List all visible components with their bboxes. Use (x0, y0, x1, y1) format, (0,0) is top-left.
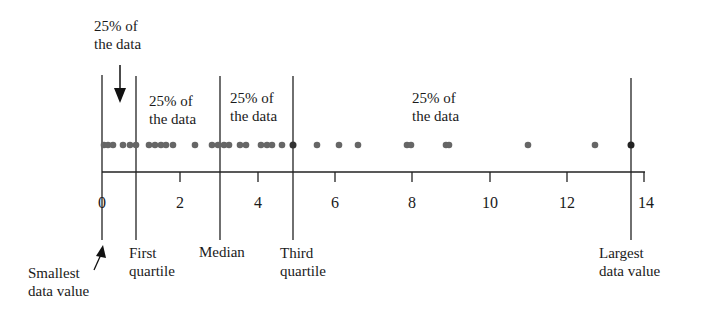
tick-label: 4 (254, 194, 262, 212)
tick-label: 0 (98, 194, 106, 212)
axis-ticks (180, 172, 644, 182)
data-points (101, 142, 635, 149)
tick-label: 10 (482, 194, 498, 212)
tick-label: 6 (331, 194, 339, 212)
smallest-value-label: Smallest data value (28, 264, 89, 300)
tick-label: 2 (176, 194, 184, 212)
region-annotation-q4: 25% of the data (412, 89, 459, 125)
tick-label: 12 (559, 194, 575, 212)
median-label: Median (199, 243, 245, 261)
arrow-up-head-icon (96, 245, 106, 258)
arrow-down-head-icon (114, 88, 126, 103)
region-annotation-q3: 25% of the data (230, 89, 277, 125)
region-annotation-q1: 25% of the data (94, 17, 141, 53)
tick-label: 8 (408, 194, 416, 212)
first-quartile-label: First quartile (129, 244, 175, 280)
largest-value-label: Largest data value (599, 244, 660, 280)
tick-label: 14 (638, 194, 654, 212)
third-quartile-label: Third quartile (280, 244, 326, 280)
region-annotation-q2: 25% of the data (149, 92, 196, 128)
